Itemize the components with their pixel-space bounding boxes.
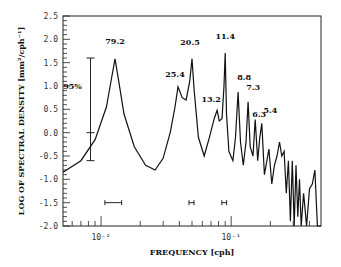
y-tick-label: 2.5 bbox=[44, 12, 59, 21]
y-tick-label: -0.5 bbox=[39, 152, 58, 161]
y-axis-label: LOG OF SPECTRAL DENSITY [mm²/cph⁻¹] bbox=[16, 27, 26, 215]
spectrum-line bbox=[63, 53, 321, 226]
peak-label: 11.4 bbox=[215, 31, 235, 41]
y-tick-label: -1.0 bbox=[39, 175, 58, 184]
peak-label: 25.4 bbox=[165, 69, 185, 79]
x-tick-label: 10⁻¹ bbox=[222, 233, 241, 242]
bandwidth-bars bbox=[105, 200, 227, 205]
peak-label: 20.5 bbox=[180, 37, 199, 47]
peak-label: 79.2 bbox=[105, 36, 124, 46]
peak-label: 7.3 bbox=[246, 82, 260, 92]
peak-label: 8.8 bbox=[237, 72, 251, 82]
x-tick-label: 10⁻² bbox=[91, 233, 110, 242]
y-tick-label: 0.0 bbox=[44, 129, 59, 138]
x-axis-label: FREQUENCY [cph] bbox=[150, 247, 235, 257]
spectral-density-chart: 2.52.01.51.00.50.0-0.5-1.0-1.5-2.0 10⁻²1… bbox=[0, 0, 341, 267]
ci-label: 95% bbox=[63, 81, 82, 91]
y-tick-label: 1.5 bbox=[44, 59, 59, 68]
y-tick-label: -2.0 bbox=[39, 222, 58, 231]
peak-label: 13.2 bbox=[201, 94, 220, 104]
x-axis-ticks: 10⁻²10⁻¹ bbox=[72, 216, 309, 242]
y-tick-label: 0.5 bbox=[44, 105, 59, 114]
y-tick-label: 2.0 bbox=[44, 35, 59, 44]
y-tick-label: 1.0 bbox=[44, 82, 59, 91]
peak-annotations: 79.225.420.513.211.48.87.36.35.4 bbox=[105, 31, 278, 119]
y-tick-label: -1.5 bbox=[39, 199, 58, 208]
peak-label: 5.4 bbox=[263, 105, 277, 115]
y-axis-ticks: 2.52.01.51.00.50.0-0.5-1.0-1.5-2.0 bbox=[39, 12, 70, 231]
